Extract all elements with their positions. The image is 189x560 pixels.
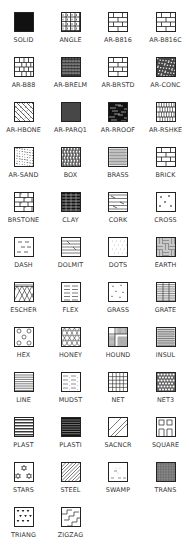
swamp-pattern-icon[interactable] — [108, 462, 128, 482]
pattern-square[interactable]: SQUARE — [142, 413, 189, 458]
pattern-cross[interactable]: CROSS — [142, 188, 189, 233]
pattern-ar-b88[interactable]: AR-B88 — [0, 53, 47, 98]
clay-pattern-icon[interactable] — [61, 192, 81, 212]
pattern-label: TRIANG — [11, 531, 36, 539]
pattern-flex[interactable]: FLEX — [47, 278, 94, 323]
pattern-label: EARTH — [155, 261, 177, 269]
pattern-dash[interactable]: DASH — [0, 233, 47, 278]
hound-pattern-icon[interactable] — [108, 327, 128, 347]
pattern-angle[interactable]: ANGLE — [47, 8, 94, 53]
grate-pattern-icon[interactable] — [156, 282, 176, 302]
pattern-label: ANGLE — [59, 36, 81, 44]
pattern-insul[interactable]: INSUL — [142, 323, 189, 368]
ar-sand-pattern-icon[interactable] — [14, 147, 34, 167]
hex-pattern-icon[interactable] — [14, 327, 34, 347]
pattern-hound[interactable]: HOUND — [94, 323, 142, 368]
mudst-pattern-icon[interactable] — [61, 372, 81, 392]
dots-pattern-icon[interactable] — [108, 237, 128, 257]
pattern-stars[interactable]: STARS — [0, 458, 47, 503]
brstone-pattern-icon[interactable] — [14, 192, 34, 212]
solid-pattern-icon[interactable] — [14, 12, 34, 32]
ar-parq1-pattern-icon[interactable] — [61, 102, 81, 122]
triang-pattern-icon[interactable] — [14, 507, 34, 527]
pattern-brass[interactable]: BRASS — [94, 143, 142, 188]
pattern-label: PLASTI — [59, 441, 81, 449]
brick-pattern-icon[interactable] — [156, 147, 176, 167]
pattern-zigzag[interactable]: ZIGZAG — [47, 503, 94, 548]
pattern-label: CLAY — [62, 216, 78, 224]
pattern-ar-rshke[interactable]: AR-RSHKE — [142, 98, 189, 143]
insul-pattern-icon[interactable] — [156, 327, 176, 347]
pattern-box[interactable]: BOX — [47, 143, 94, 188]
pattern-plasti[interactable]: PLASTI — [47, 413, 94, 458]
pattern-steel[interactable]: STEEL — [47, 458, 94, 503]
pattern-swamp[interactable]: SWAMP — [94, 458, 142, 503]
pattern-ar-brelm[interactable]: AR-BRELM — [47, 53, 94, 98]
ar-brelm-pattern-icon[interactable] — [61, 57, 81, 77]
net3-pattern-icon[interactable] — [156, 372, 176, 392]
stars-pattern-icon[interactable] — [14, 462, 34, 482]
pattern-ar-parq1[interactable]: AR-PARQ1 — [47, 98, 94, 143]
ar-b816-pattern-icon[interactable] — [108, 12, 128, 32]
ar-b816c-pattern-icon[interactable] — [156, 12, 176, 32]
zigzag-pattern-icon[interactable] — [61, 507, 81, 527]
pattern-hex[interactable]: HEX — [0, 323, 47, 368]
pattern-earth[interactable]: EARTH — [142, 233, 189, 278]
earth-pattern-icon[interactable] — [156, 237, 176, 257]
sacncr-pattern-icon[interactable] — [108, 417, 128, 437]
pattern-cork[interactable]: CORK — [94, 188, 142, 233]
ar-rshke-pattern-icon[interactable] — [156, 102, 176, 122]
pattern-plast[interactable]: PLAST — [0, 413, 47, 458]
pattern-line[interactable]: LINE — [0, 368, 47, 413]
pattern-ar-sand[interactable]: AR-SAND — [0, 143, 47, 188]
pattern-dots[interactable]: DOTS — [94, 233, 142, 278]
cork-pattern-icon[interactable] — [108, 192, 128, 212]
pattern-ar-conc[interactable]: AR-CONC — [142, 53, 189, 98]
ar-b88-pattern-icon[interactable] — [14, 57, 34, 77]
plasti-pattern-icon[interactable] — [61, 417, 81, 437]
pattern-solid[interactable]: SOLID — [0, 8, 47, 53]
pattern-label: AR-PARQ1 — [54, 126, 87, 134]
hatch-pattern-palette: SOLIDANGLEAR-B816AR-B816CAR-B88AR-BRELMA… — [0, 8, 189, 548]
pattern-net3[interactable]: NET3 — [142, 368, 189, 413]
flex-pattern-icon[interactable] — [61, 282, 81, 302]
pattern-brstone[interactable]: BRSTONE — [0, 188, 47, 233]
ar-hbone-pattern-icon[interactable] — [14, 102, 34, 122]
ar-brstd-pattern-icon[interactable] — [108, 57, 128, 77]
escher-pattern-icon[interactable] — [14, 282, 34, 302]
angle-pattern-icon[interactable] — [61, 12, 81, 32]
pattern-trans[interactable]: TRANS — [142, 458, 189, 503]
pattern-ar-hbone[interactable]: AR-HBONE — [0, 98, 47, 143]
pattern-ar-b816c[interactable]: AR-B816C — [142, 8, 189, 53]
plast-pattern-icon[interactable] — [14, 417, 34, 437]
pattern-escher[interactable]: ESCHER — [0, 278, 47, 323]
pattern-dolmit[interactable]: DOLMIT — [47, 233, 94, 278]
steel-pattern-icon[interactable] — [61, 462, 81, 482]
pattern-ar-b816[interactable]: AR-B816 — [94, 8, 142, 53]
pattern-honey[interactable]: HONEY — [47, 323, 94, 368]
ar-conc-pattern-icon[interactable] — [156, 57, 176, 77]
trans-pattern-icon[interactable] — [156, 462, 176, 482]
pattern-clay[interactable]: CLAY — [47, 188, 94, 233]
ar-rroof-pattern-icon[interactable] — [108, 102, 128, 122]
net-pattern-icon[interactable] — [108, 372, 128, 392]
pattern-label: BRSTONE — [8, 216, 39, 224]
line-pattern-icon[interactable] — [14, 372, 34, 392]
honey-pattern-icon[interactable] — [61, 327, 81, 347]
pattern-net[interactable]: NET — [94, 368, 142, 413]
pattern-grass[interactable]: GRASS — [94, 278, 142, 323]
brass-pattern-icon[interactable] — [108, 147, 128, 167]
pattern-triang[interactable]: TRIANG — [0, 503, 47, 548]
grass-pattern-icon[interactable] — [108, 282, 128, 302]
square-pattern-icon[interactable] — [156, 417, 176, 437]
dolmit-pattern-icon[interactable] — [61, 237, 81, 257]
pattern-sacncr[interactable]: SACNCR — [94, 413, 142, 458]
pattern-grate[interactable]: GRATE — [142, 278, 189, 323]
box-pattern-icon[interactable] — [61, 147, 81, 167]
pattern-mudst[interactable]: MUDST — [47, 368, 94, 413]
dash-pattern-icon[interactable] — [14, 237, 34, 257]
pattern-ar-brstd[interactable]: AR-BRSTD — [94, 53, 142, 98]
pattern-brick[interactable]: BRICK — [142, 143, 189, 188]
pattern-ar-rroof[interactable]: AR-RROOF — [94, 98, 142, 143]
cross-pattern-icon[interactable] — [156, 192, 176, 212]
